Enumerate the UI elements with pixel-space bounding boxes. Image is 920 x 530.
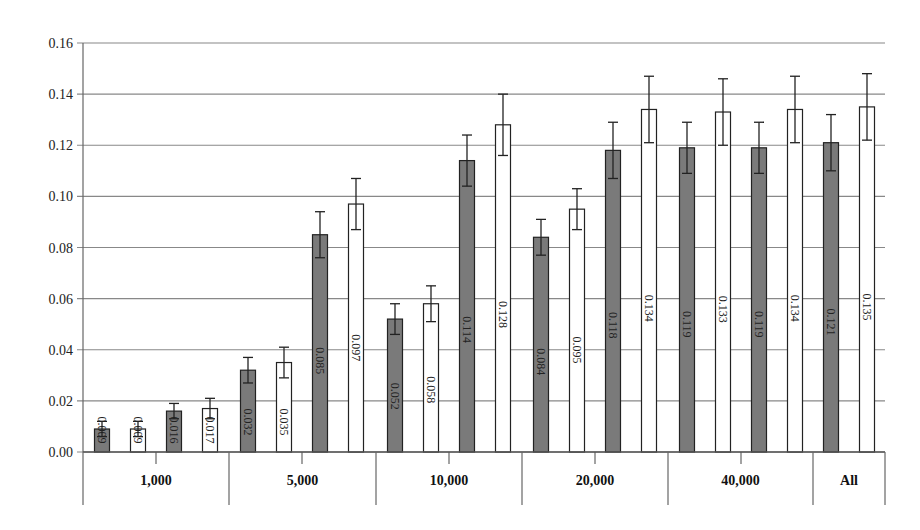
bar-gray — [752, 148, 767, 452]
bar-gray — [680, 148, 695, 452]
bar-value-label: 0.052 — [388, 383, 402, 410]
bar-value-label: 0.119 — [680, 311, 694, 338]
bar-value-label: 0.035 — [277, 409, 291, 436]
bar-value-label: 0.016 — [167, 417, 181, 444]
category-label: 40,000 — [721, 473, 760, 488]
category-label: 5,000 — [287, 473, 319, 488]
y-tick-label: 0.06 — [49, 292, 74, 307]
bar-white — [716, 112, 731, 452]
category-label: 1,000 — [140, 473, 172, 488]
bars: 0.0090.0090.0160.0170.0320.0350.0850.097… — [95, 74, 875, 452]
bar-white — [496, 125, 511, 452]
y-tick-label: 0.12 — [49, 138, 74, 153]
bar-gray — [606, 150, 621, 452]
category-label: 20,000 — [576, 473, 615, 488]
bar-value-label: 0.121 — [824, 309, 838, 336]
y-tick-label: 0.02 — [49, 394, 74, 409]
category-label: All — [840, 473, 858, 488]
bar-value-label: 0.134 — [642, 295, 656, 322]
bar-white — [642, 109, 657, 452]
bar-value-label: 0.097 — [349, 334, 363, 361]
bar-value-label: 0.114 — [460, 316, 474, 343]
bar-value-label: 0.084 — [534, 348, 548, 375]
y-tick-label: 0.16 — [49, 36, 74, 51]
bar-value-label: 0.133 — [716, 296, 730, 323]
y-tick-label: 0.14 — [49, 87, 74, 102]
bar-value-label: 0.058 — [424, 376, 438, 403]
y-tick-label: 0.00 — [49, 445, 74, 460]
category-label: 10,000 — [430, 473, 469, 488]
bar-gray — [534, 237, 549, 452]
bar-value-label: 0.134 — [788, 295, 802, 322]
bar-white — [788, 109, 803, 452]
bar-value-label: 0.095 — [570, 337, 584, 364]
y-tick-label: 0.04 — [49, 343, 74, 358]
bar-white — [349, 204, 364, 452]
y-tick-label: 0.10 — [49, 189, 74, 204]
bar-value-label: 0.032 — [241, 409, 255, 436]
bar-gray — [460, 161, 475, 452]
bar-value-label: 0.128 — [496, 301, 510, 328]
x-axis-category-table: 1,0005,00010,00020,00040,000All — [83, 452, 885, 505]
bar-white — [860, 107, 875, 452]
bar-gray — [824, 143, 839, 452]
bar-value-label: 0.009 — [95, 417, 109, 444]
bar-value-label: 0.135 — [860, 294, 874, 321]
bar-value-label: 0.017 — [203, 417, 217, 444]
bar-gray — [313, 235, 328, 452]
bar-value-label: 0.085 — [313, 347, 327, 374]
y-tick-label: 0.08 — [49, 241, 74, 256]
bar-chart: 0.000.020.040.060.080.100.120.140.16 0.0… — [0, 0, 920, 530]
bar-value-label: 0.009 — [131, 417, 145, 444]
bar-value-label: 0.119 — [752, 311, 766, 338]
bar-white — [570, 209, 585, 452]
bar-value-label: 0.118 — [606, 312, 620, 339]
